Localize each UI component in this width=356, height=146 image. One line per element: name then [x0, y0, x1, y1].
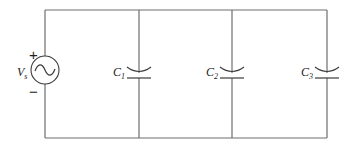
c3-label-subscript: 3: [308, 72, 313, 81]
capacitor-c3: C3: [301, 10, 339, 138]
source-label-subscript: s: [24, 72, 27, 81]
voltage-source-branch: + − Vs: [17, 10, 59, 138]
c2-label-subscript: 2: [214, 72, 218, 81]
c3-label: C3: [301, 65, 313, 81]
capacitor-c1: C1: [113, 10, 151, 138]
capacitor-c2: C2: [206, 10, 244, 138]
c1-label: C1: [113, 65, 125, 81]
source-label: Vs: [17, 65, 27, 81]
c1-label-subscript: 1: [121, 72, 125, 81]
plus-sign: +: [29, 46, 38, 63]
c2-label: C2: [206, 65, 218, 81]
minus-sign: −: [29, 83, 38, 100]
circuit-diagram: + − Vs C1 C2 C3: [0, 0, 356, 146]
